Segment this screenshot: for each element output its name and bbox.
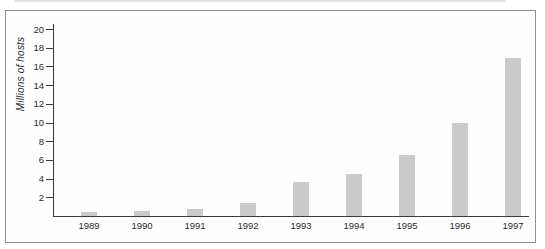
y-tick-label-14: 14 [22, 80, 44, 91]
bar-1991 [187, 209, 203, 216]
y-tick-mark-14 [46, 85, 53, 86]
x-tick-label-1989: 1989 [72, 220, 106, 231]
x-tick-label-1997: 1997 [496, 220, 530, 231]
x-tick-label-1993: 1993 [284, 220, 318, 231]
x-tick-label-1995: 1995 [390, 220, 424, 231]
y-tick-label-6: 6 [22, 154, 44, 165]
bar-1995 [399, 155, 415, 216]
bar-1989 [81, 212, 97, 216]
y-tick-label-10: 10 [22, 117, 44, 128]
bar-1996 [452, 123, 468, 216]
y-tick-label-18: 18 [22, 42, 44, 53]
y-tick-mark-6 [46, 160, 53, 161]
y-tick-mark-20 [46, 29, 53, 30]
x-tick-label-1990: 1990 [125, 220, 159, 231]
internet-hosts-bar-chart: Millions of hosts 2468101214161820 19891… [0, 0, 545, 249]
bar-1994 [346, 174, 362, 216]
x-tick-label-1992: 1992 [231, 220, 265, 231]
x-axis-line [53, 216, 529, 217]
bar-1990 [134, 211, 150, 216]
bar-1992 [240, 203, 256, 216]
scan-artifact-line [14, 0, 506, 2]
x-tick-label-1991: 1991 [178, 220, 212, 231]
bar-1997 [505, 58, 521, 216]
bar-1993 [293, 182, 309, 216]
y-tick-label-12: 12 [22, 98, 44, 109]
y-tick-label-8: 8 [22, 136, 44, 147]
y-tick-mark-16 [46, 66, 53, 67]
y-tick-label-20: 20 [22, 24, 44, 35]
y-tick-mark-2 [46, 197, 53, 198]
y-tick-label-16: 16 [22, 61, 44, 72]
y-tick-label-2: 2 [22, 192, 44, 203]
y-axis-line [53, 24, 54, 217]
y-tick-mark-4 [46, 179, 53, 180]
y-tick-mark-12 [46, 104, 53, 105]
y-tick-label-4: 4 [22, 173, 44, 184]
y-tick-mark-18 [46, 48, 53, 49]
x-tick-label-1994: 1994 [337, 220, 371, 231]
y-tick-mark-8 [46, 141, 53, 142]
y-tick-mark-10 [46, 123, 53, 124]
x-tick-label-1996: 1996 [443, 220, 477, 231]
